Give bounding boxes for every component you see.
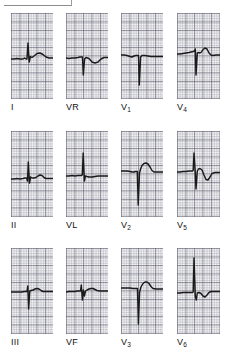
lead-panel-V3	[121, 248, 163, 334]
lead-trace-II	[11, 162, 53, 183]
lead-trace-I-svg	[11, 13, 53, 99]
lead-panel-VF	[66, 248, 108, 334]
lead-panel-III	[11, 248, 53, 334]
lead-label-VR-text: VR	[66, 102, 79, 112]
lead-label-V4-subscript: 4	[183, 106, 187, 113]
lead-label-VF-text: VF	[66, 337, 78, 347]
ecg-row-1	[0, 13, 233, 99]
lead-panel-I	[11, 13, 53, 99]
ecg-label-row-1: I VR V1 V4	[0, 101, 233, 117]
lead-trace-V4	[177, 48, 220, 75]
lead-trace-III	[11, 286, 53, 309]
lead-trace-II-svg	[11, 131, 53, 217]
lead-label-I: I	[11, 101, 14, 116]
lead-trace-VL-svg	[66, 131, 108, 217]
ecg-label-row-3: III VF V3 V6	[0, 336, 233, 352]
ecg-row-2	[0, 131, 233, 217]
lead-trace-VR	[66, 57, 108, 75]
lead-trace-V1-svg	[121, 13, 163, 99]
top-rule-divider	[4, 5, 72, 6]
lead-panel-V5	[177, 131, 220, 217]
lead-panel-V1	[121, 13, 163, 99]
lead-trace-V2	[121, 163, 163, 205]
lead-panel-II	[11, 131, 53, 217]
lead-label-II: II	[11, 219, 16, 234]
lead-trace-V1	[121, 55, 163, 85]
lead-trace-V6-svg	[177, 248, 220, 334]
lead-trace-III-svg	[11, 248, 53, 334]
lead-panel-V2	[121, 131, 163, 217]
lead-trace-I	[11, 43, 53, 62]
lead-label-V1-subscript: 1	[127, 106, 131, 113]
lead-label-V3-subscript: 3	[127, 341, 131, 348]
lead-label-V5: V5	[177, 219, 187, 234]
lead-label-III-text: III	[11, 337, 19, 347]
lead-label-V6: V6	[177, 336, 187, 351]
lead-panel-VL	[66, 131, 108, 217]
lead-label-V6-subscript: 6	[183, 341, 187, 348]
lead-label-VL-text: VL	[66, 220, 77, 230]
lead-label-II-text: II	[11, 220, 16, 230]
lead-trace-V4-svg	[177, 13, 220, 99]
lead-panel-V4	[177, 13, 220, 99]
lead-trace-VL	[66, 153, 108, 181]
lead-trace-VF	[66, 285, 108, 300]
lead-panel-VR	[66, 13, 108, 99]
ecg-label-row-2: II VL V2 V5	[0, 219, 233, 235]
lead-label-V2-subscript: 2	[127, 224, 131, 231]
lead-label-V4: V4	[177, 101, 187, 116]
lead-trace-VR-svg	[66, 13, 108, 99]
lead-label-VF: VF	[66, 336, 78, 351]
lead-label-V2: V2	[121, 219, 131, 234]
twelve-lead-ecg-figure: I VR V1 V4 II VL V2 V5	[0, 0, 233, 359]
lead-label-III: III	[11, 336, 19, 351]
lead-trace-V3-svg	[121, 248, 163, 334]
lead-label-V1: V1	[121, 101, 131, 116]
lead-trace-V2-svg	[121, 131, 163, 217]
lead-trace-VF-svg	[66, 248, 108, 334]
lead-trace-V5	[177, 153, 220, 189]
lead-panel-V6	[177, 248, 220, 334]
lead-trace-V5-svg	[177, 131, 220, 217]
lead-label-V3: V3	[121, 336, 131, 351]
lead-label-VR: VR	[66, 101, 79, 116]
lead-label-I-text: I	[11, 102, 14, 112]
lead-trace-V3	[121, 282, 163, 324]
ecg-row-3	[0, 248, 233, 334]
lead-trace-V6	[177, 258, 220, 300]
lead-label-VL: VL	[66, 219, 77, 234]
top-rule-end-cap	[71, 0, 72, 6]
lead-label-V5-subscript: 5	[183, 224, 187, 231]
